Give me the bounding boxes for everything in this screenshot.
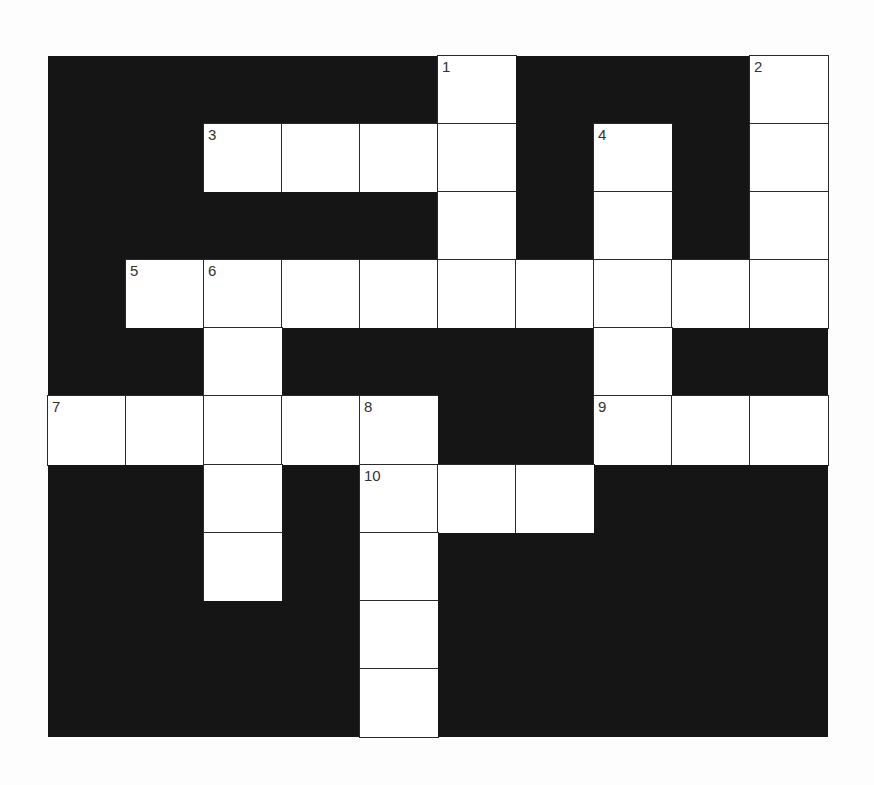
- letter-cell[interactable]: [750, 396, 828, 464]
- block-cell: [48, 669, 126, 737]
- block-cell: [48, 533, 126, 601]
- block-cell: [282, 328, 360, 396]
- letter-cell[interactable]: [516, 465, 594, 533]
- clue-number: 6: [208, 263, 216, 278]
- block-cell: [48, 260, 126, 328]
- letter-cell[interactable]: [360, 533, 438, 601]
- letter-cell[interactable]: [594, 192, 672, 260]
- letter-cell[interactable]: 3: [204, 124, 282, 192]
- letter-cell[interactable]: [204, 465, 282, 533]
- letter-cell[interactable]: [204, 533, 282, 601]
- letter-cell[interactable]: [282, 260, 360, 328]
- block-cell: [516, 533, 594, 601]
- block-cell: [126, 328, 204, 396]
- clue-number: 2: [754, 59, 762, 74]
- letter-cell[interactable]: [204, 328, 282, 396]
- block-cell: [282, 601, 360, 669]
- block-cell: [360, 56, 438, 124]
- letter-cell[interactable]: [360, 124, 438, 192]
- letter-cell[interactable]: [438, 260, 516, 328]
- letter-cell[interactable]: 9: [594, 396, 672, 464]
- letter-cell[interactable]: 5: [126, 260, 204, 328]
- clue-number: 10: [364, 468, 381, 483]
- letter-cell[interactable]: [126, 396, 204, 464]
- block-cell: [282, 192, 360, 260]
- letter-cell[interactable]: 2: [750, 56, 828, 124]
- block-cell: [438, 533, 516, 601]
- block-cell: [204, 56, 282, 124]
- block-cell: [750, 533, 828, 601]
- letter-cell[interactable]: 1: [438, 56, 516, 124]
- clue-number: 9: [598, 399, 606, 414]
- letter-cell[interactable]: [750, 260, 828, 328]
- letter-cell[interactable]: 4: [594, 124, 672, 192]
- block-cell: [126, 601, 204, 669]
- block-cell: [48, 124, 126, 192]
- clue-number: 5: [130, 263, 138, 278]
- letter-cell[interactable]: [594, 328, 672, 396]
- block-cell: [438, 669, 516, 737]
- letter-cell[interactable]: 7: [48, 396, 126, 464]
- letter-cell[interactable]: [282, 124, 360, 192]
- block-cell: [126, 465, 204, 533]
- clue-number: 4: [598, 127, 606, 142]
- letter-cell[interactable]: [360, 260, 438, 328]
- block-cell: [126, 56, 204, 124]
- letter-cell[interactable]: [438, 192, 516, 260]
- letter-cell[interactable]: 6: [204, 260, 282, 328]
- block-cell: [282, 669, 360, 737]
- block-cell: [438, 328, 516, 396]
- block-cell: [282, 533, 360, 601]
- letter-cell[interactable]: [750, 124, 828, 192]
- clue-number: 1: [442, 59, 450, 74]
- block-cell: [672, 192, 750, 260]
- block-cell: [438, 601, 516, 669]
- block-cell: [360, 192, 438, 260]
- letter-cell[interactable]: [750, 192, 828, 260]
- letter-cell[interactable]: [438, 124, 516, 192]
- block-cell: [594, 601, 672, 669]
- block-cell: [672, 669, 750, 737]
- block-cell: [594, 56, 672, 124]
- letter-cell[interactable]: [438, 465, 516, 533]
- crossword-grid: 12345678910: [48, 56, 828, 737]
- block-cell: [750, 669, 828, 737]
- letter-cell[interactable]: 8: [360, 396, 438, 464]
- block-cell: [672, 533, 750, 601]
- clue-number: 8: [364, 399, 372, 414]
- letter-cell[interactable]: [672, 260, 750, 328]
- letter-cell[interactable]: [282, 396, 360, 464]
- letter-cell[interactable]: [594, 260, 672, 328]
- block-cell: [282, 56, 360, 124]
- block-cell: [516, 56, 594, 124]
- block-cell: [48, 56, 126, 124]
- block-cell: [516, 192, 594, 260]
- letter-cell[interactable]: [204, 396, 282, 464]
- block-cell: [516, 396, 594, 464]
- block-cell: [516, 601, 594, 669]
- block-cell: [516, 669, 594, 737]
- block-cell: [750, 465, 828, 533]
- letter-cell[interactable]: [516, 260, 594, 328]
- block-cell: [672, 56, 750, 124]
- block-cell: [516, 124, 594, 192]
- letter-cell[interactable]: [672, 396, 750, 464]
- letter-cell[interactable]: [360, 669, 438, 737]
- letter-cell[interactable]: 10: [360, 465, 438, 533]
- block-cell: [672, 124, 750, 192]
- block-cell: [204, 669, 282, 737]
- block-cell: [204, 192, 282, 260]
- block-cell: [126, 533, 204, 601]
- block-cell: [672, 601, 750, 669]
- letter-cell[interactable]: [360, 601, 438, 669]
- block-cell: [594, 669, 672, 737]
- block-cell: [594, 533, 672, 601]
- block-cell: [750, 328, 828, 396]
- block-cell: [750, 601, 828, 669]
- block-cell: [48, 465, 126, 533]
- clue-number: 7: [52, 399, 60, 414]
- block-cell: [204, 601, 282, 669]
- block-cell: [48, 601, 126, 669]
- clue-number: 3: [208, 127, 216, 142]
- block-cell: [126, 669, 204, 737]
